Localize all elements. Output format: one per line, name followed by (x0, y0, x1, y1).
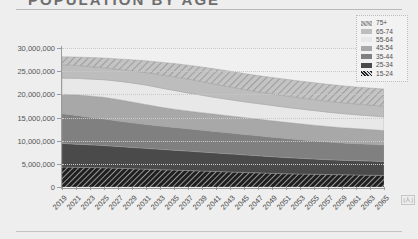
gridline (62, 164, 384, 165)
legend-swatch-icon (361, 21, 372, 26)
legend-label: 25-34 (376, 61, 393, 69)
x-tick-mark (342, 187, 343, 190)
y-axis-label: 15,000,000 (17, 113, 55, 122)
legend-swatch-icon (361, 54, 372, 59)
x-tick-mark (90, 187, 91, 190)
legend-item[interactable]: 15-24 (361, 69, 404, 77)
y-axis-label: 10,000,000 (17, 136, 55, 145)
x-tick-mark (188, 187, 189, 190)
gridline (62, 94, 384, 95)
x-tick-mark (62, 187, 63, 190)
legend-item[interactable]: 75+ (361, 19, 404, 27)
x-tick-mark (104, 187, 105, 190)
y-axis-label: 25,000,000 (17, 67, 55, 76)
x-tick-mark (328, 187, 329, 190)
y-tick-mark (57, 118, 62, 119)
y-axis-label: 30,000,000 (17, 44, 55, 53)
legend-label: 65-74 (376, 28, 393, 36)
x-tick-mark (76, 187, 77, 190)
legend-label: 55-64 (376, 36, 393, 44)
legend-swatch-icon (361, 63, 372, 68)
x-tick-mark (370, 187, 371, 190)
x-tick-mark (160, 187, 161, 190)
legend-label: 15-24 (376, 70, 393, 78)
bottom-divider (16, 231, 402, 232)
legend-label: 75+ (376, 19, 387, 27)
legend-label: 35-44 (376, 53, 393, 61)
legend-swatch-icon (361, 29, 372, 34)
x-tick-mark (356, 187, 357, 190)
legend-item[interactable]: 55-64 (361, 36, 404, 44)
x-tick-mark (216, 187, 217, 190)
legend-swatch-icon (361, 71, 372, 76)
x-tick-mark (272, 187, 273, 190)
legend-item[interactable]: 25-34 (361, 61, 404, 69)
legend-swatch-icon (361, 46, 372, 51)
y-tick-mark (57, 141, 62, 142)
x-tick-mark (118, 187, 119, 190)
y-tick-mark (57, 71, 62, 72)
gridline (62, 141, 384, 142)
legend-swatch-icon (361, 37, 372, 42)
y-tick-mark (57, 48, 62, 49)
x-tick-mark (244, 187, 245, 190)
legend-label: 45-54 (376, 44, 393, 52)
x-tick-mark (258, 187, 259, 190)
chart-title-strip: POPULATION BY AGE (0, 0, 418, 8)
x-tick-mark (384, 187, 385, 190)
legend-item[interactable]: 65-74 (361, 27, 404, 35)
x-axis-line (61, 188, 385, 189)
y-tick-mark (57, 94, 62, 95)
x-tick-mark (230, 187, 231, 190)
legend-item[interactable]: 35-44 (361, 53, 404, 61)
plot-area: 05,000,00010,000,00015,000,00020,000,000… (62, 48, 384, 187)
title-divider (16, 9, 402, 10)
legend-item[interactable]: 45-54 (361, 44, 404, 52)
legend[interactable]: 75+65-7455-6445-5435-4425-3415-24 (356, 15, 408, 82)
gridline (62, 118, 384, 119)
page-title: POPULATION BY AGE (28, 0, 220, 8)
y-axis-label: 0 (51, 183, 55, 192)
gridline (62, 71, 384, 72)
y-tick-mark (57, 164, 62, 165)
x-tick-mark (174, 187, 175, 190)
x-tick-mark (300, 187, 301, 190)
x-tick-mark (314, 187, 315, 190)
x-tick-mark (202, 187, 203, 190)
y-axis-label: 20,000,000 (17, 90, 55, 99)
x-tick-mark (286, 187, 287, 190)
unit-note: (人) (401, 195, 415, 205)
chart-page: POPULATION BY AGE 05,0 (0, 0, 418, 239)
y-axis-label: 5,000,000 (22, 159, 55, 168)
gridline (62, 48, 384, 49)
x-tick-mark (146, 187, 147, 190)
x-tick-mark (132, 187, 133, 190)
